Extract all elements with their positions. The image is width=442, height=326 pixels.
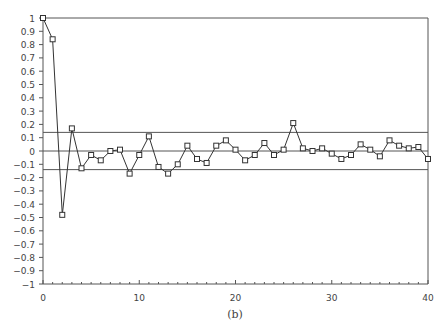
y-tick-label: 1 bbox=[29, 14, 35, 24]
data-point-marker bbox=[233, 147, 238, 152]
data-point-marker bbox=[127, 171, 132, 176]
data-point-marker bbox=[291, 121, 296, 126]
y-tick-label: 0 bbox=[29, 147, 35, 157]
data-point-marker bbox=[310, 149, 315, 154]
data-point-marker bbox=[397, 143, 402, 148]
data-point-marker bbox=[406, 146, 411, 151]
x-tick-label: 30 bbox=[326, 293, 338, 303]
y-tick-label: 0.6 bbox=[21, 67, 36, 77]
x-tick-label: 0 bbox=[40, 293, 46, 303]
y-tick-label: 0.9 bbox=[21, 27, 36, 37]
y-tick-label: 0.5 bbox=[21, 80, 35, 90]
y-tick-label: 0.4 bbox=[21, 93, 36, 103]
y-tick-label: −0.4 bbox=[13, 200, 35, 210]
data-point-marker bbox=[166, 171, 171, 176]
data-point-marker bbox=[300, 146, 305, 151]
y-tick-label: −0.1 bbox=[13, 160, 35, 170]
y-tick-label: 0.2 bbox=[21, 120, 35, 130]
data-point-marker bbox=[416, 145, 421, 150]
figure-caption: (b) bbox=[227, 308, 243, 321]
data-point-marker bbox=[60, 212, 65, 217]
data-point-marker bbox=[368, 147, 373, 152]
data-point-marker bbox=[252, 152, 257, 157]
data-point-marker bbox=[223, 138, 228, 143]
data-point-marker bbox=[329, 151, 334, 156]
data-point-marker bbox=[89, 152, 94, 157]
data-point-marker bbox=[358, 142, 363, 147]
data-point-marker bbox=[320, 146, 325, 151]
y-tick-label: −0.9 bbox=[13, 266, 35, 276]
data-point-marker bbox=[156, 164, 161, 169]
y-tick-label: −0.2 bbox=[13, 173, 35, 183]
y-tick-label: −0.7 bbox=[13, 240, 35, 250]
y-tick-label: 0.3 bbox=[21, 107, 35, 117]
data-point-marker bbox=[146, 134, 151, 139]
x-tick-label: 20 bbox=[230, 293, 242, 303]
y-tick-label: 0.1 bbox=[21, 133, 35, 143]
data-point-marker bbox=[243, 158, 248, 163]
data-point-marker bbox=[281, 147, 286, 152]
data-point-marker bbox=[41, 16, 46, 21]
data-point-marker bbox=[272, 152, 277, 157]
data-point-marker bbox=[137, 152, 142, 157]
data-point-marker bbox=[79, 166, 84, 171]
data-point-marker bbox=[98, 158, 103, 163]
y-axis: 10.90.80.70.60.50.40.30.20.10−0.1−0.2−0.… bbox=[13, 14, 43, 290]
data-point-marker bbox=[185, 143, 190, 148]
data-point-marker bbox=[377, 154, 382, 159]
y-tick-label: −1 bbox=[22, 280, 35, 290]
data-point-marker bbox=[69, 126, 74, 131]
data-point-marker bbox=[118, 147, 123, 152]
y-tick-label: 0.8 bbox=[21, 40, 36, 50]
y-tick-label: −0.8 bbox=[13, 253, 35, 263]
y-tick-label: −0.3 bbox=[13, 186, 35, 196]
data-point-marker bbox=[387, 138, 392, 143]
x-tick-label: 40 bbox=[422, 293, 434, 303]
data-point-marker bbox=[349, 152, 354, 157]
data-point-marker bbox=[339, 156, 344, 161]
series-line bbox=[43, 18, 428, 215]
data-point-marker bbox=[175, 162, 180, 167]
data-point-marker bbox=[195, 156, 200, 161]
y-tick-label: −0.6 bbox=[13, 226, 35, 236]
data-point-marker bbox=[108, 149, 113, 154]
acf-chart: 10.90.80.70.60.50.40.30.20.10−0.1−0.2−0.… bbox=[0, 0, 442, 326]
data-point-marker bbox=[214, 143, 219, 148]
data-point-marker bbox=[262, 141, 267, 146]
x-tick-label: 10 bbox=[134, 293, 146, 303]
data-point-marker bbox=[204, 160, 209, 165]
y-tick-label: −0.5 bbox=[13, 213, 35, 223]
data-point-marker bbox=[426, 156, 431, 161]
y-tick-label: 0.7 bbox=[21, 53, 35, 63]
series-autocorrelation bbox=[41, 16, 431, 218]
data-point-marker bbox=[50, 37, 55, 42]
